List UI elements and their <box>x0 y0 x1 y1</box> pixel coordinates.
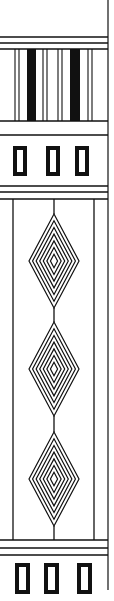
diamond-3-ring-2 <box>33 439 76 520</box>
diamond-1-ring-6 <box>47 248 61 275</box>
diamond-2-ring-4 <box>40 342 69 396</box>
thick-stripe <box>70 49 80 121</box>
top-box-3 <box>77 148 87 174</box>
bottom-box-2 <box>46 565 57 592</box>
top-box-1 <box>15 148 25 174</box>
thick-stripe <box>27 49 36 121</box>
diamond-1-ring-4 <box>40 234 69 288</box>
bottom-box-3 <box>79 565 90 592</box>
diamond-3-ring-4 <box>40 452 69 506</box>
diamond-1-ring-2 <box>33 221 76 302</box>
top-box-2 <box>48 148 58 174</box>
diamond-3-ring-6 <box>47 466 61 493</box>
diamond-1-ring-7 <box>50 254 57 267</box>
diamond-2-ring-2 <box>33 329 76 410</box>
diamond-2-ring-6 <box>47 356 61 383</box>
decorative-border-ornament <box>0 0 114 601</box>
diamond-2-ring-7 <box>50 362 57 375</box>
diamond-3-ring-7 <box>50 472 57 485</box>
bottom-box-1 <box>17 565 28 592</box>
